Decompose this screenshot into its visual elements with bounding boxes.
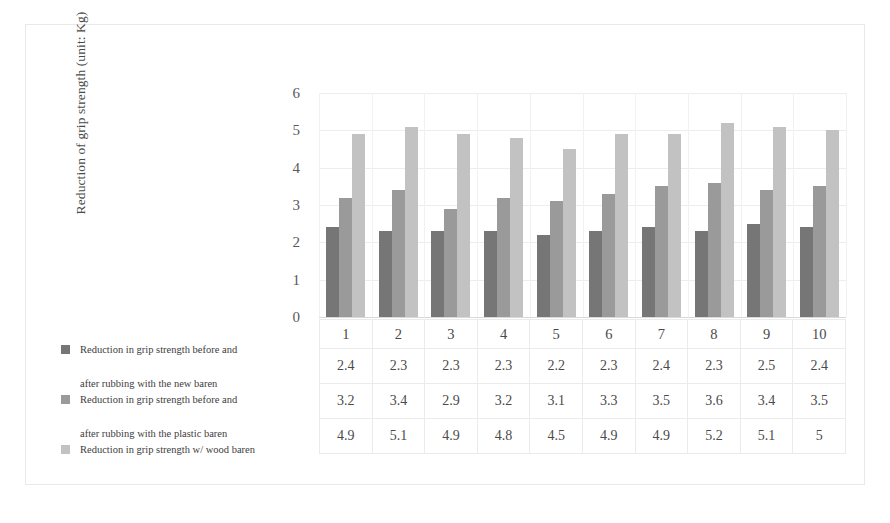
bar-group (484, 93, 523, 317)
chart-legend: Reduction in grip strength before andaft… (52, 319, 318, 479)
bar (550, 201, 563, 317)
y-tick-label: 5 (274, 123, 300, 138)
table-cell: 2.3 (372, 349, 425, 384)
bar (392, 190, 405, 317)
bar-group (642, 93, 681, 317)
table-cell: 2.4 (320, 349, 373, 384)
table-cell: 3.4 (740, 384, 793, 419)
table-cell: 2.3 (477, 349, 530, 384)
table-header-cell: 1 (320, 320, 373, 349)
bar (747, 224, 760, 317)
y-tick-label: 1 (274, 272, 300, 287)
table-cell: 4.9 (582, 419, 635, 454)
bar (497, 198, 510, 317)
bar (602, 194, 615, 317)
bar (642, 227, 655, 317)
bar (537, 235, 550, 317)
table-cell: 3.5 (635, 384, 688, 419)
bar (589, 231, 602, 317)
table-cell: 2.9 (425, 384, 478, 419)
y-tick-label: 6 (274, 86, 300, 101)
table-cell: 5.1 (740, 419, 793, 454)
gridline (319, 317, 846, 318)
bar (800, 227, 813, 317)
table-cell: 2.4 (635, 349, 688, 384)
table-cell: 2.3 (582, 349, 635, 384)
table-cell: 5.2 (688, 419, 741, 454)
table-cell: 4.9 (320, 419, 373, 454)
bar (655, 186, 668, 317)
table-cell: 4.8 (477, 419, 530, 454)
table-cell: 2.5 (740, 349, 793, 384)
table-header-cell: 6 (582, 320, 635, 349)
bar (773, 127, 786, 317)
bar-group (695, 93, 734, 317)
table-cell: 2.3 (425, 349, 478, 384)
table-header-cell: 4 (477, 320, 530, 349)
table-header-cell: 7 (635, 320, 688, 349)
bar-group (326, 93, 365, 317)
legend-label: Reduction in grip strength w/ wood baren (80, 443, 318, 456)
table-cell: 3.6 (688, 384, 741, 419)
bar (695, 231, 708, 317)
bar (563, 149, 576, 317)
bar-group (800, 93, 839, 317)
table-header-cell: 2 (372, 320, 425, 349)
bar-group (431, 93, 470, 317)
plot-area (319, 93, 846, 317)
table-header-cell: 3 (425, 320, 478, 349)
table-row: 4.95.14.94.84.54.94.95.25.15 (320, 419, 846, 454)
table-cell: 3.3 (582, 384, 635, 419)
table-row: 2.42.32.32.32.22.32.42.32.52.4 (320, 349, 846, 384)
table-cell: 5 (793, 419, 846, 454)
table-cell: 4.9 (425, 419, 478, 454)
bar (379, 231, 392, 317)
table-cell: 2.3 (688, 349, 741, 384)
legend-label-line2: after rubbing with the plastic baren (80, 427, 318, 440)
table-header-cell: 10 (793, 320, 846, 349)
y-axis-title: Reduction of grip strength (unit: Kg) (73, 0, 89, 228)
bar (813, 186, 826, 317)
y-tick-label: 4 (274, 160, 300, 175)
bar (457, 134, 470, 317)
plot-region: Reduction of grip strength (unit: Kg) 01… (26, 25, 866, 325)
table-cell: 2.2 (530, 349, 583, 384)
table-cell: 2.4 (793, 349, 846, 384)
legend-label: Reduction in grip strength before and (80, 393, 318, 406)
bar (510, 138, 523, 317)
bar (484, 231, 497, 317)
table-header-cell: 5 (530, 320, 583, 349)
bar (708, 183, 721, 317)
bar-series-container (319, 93, 846, 317)
table-cell: 3.5 (793, 384, 846, 419)
bar (668, 134, 681, 317)
data-table: 123456789102.42.32.32.32.22.32.42.32.52.… (319, 319, 846, 454)
bar-group (747, 93, 786, 317)
bar (339, 198, 352, 317)
table-header-cell: 9 (740, 320, 793, 349)
bar (326, 227, 339, 317)
bar-group (379, 93, 418, 317)
bar (615, 134, 628, 317)
bar (405, 127, 418, 317)
legend-swatch-icon (61, 445, 70, 454)
bar (444, 209, 457, 317)
bar (760, 190, 773, 317)
y-axis-tick-labels: 0123456 (274, 93, 300, 317)
table-cell: 5.1 (372, 419, 425, 454)
legend-label: Reduction in grip strength before and (80, 343, 318, 356)
table-cell: 4.5 (530, 419, 583, 454)
table-cell: 3.1 (530, 384, 583, 419)
bar (352, 134, 365, 317)
bar (826, 130, 839, 317)
legend-swatch-icon (61, 395, 70, 404)
table-header-row: 12345678910 (320, 320, 846, 349)
table-cell: 3.2 (320, 384, 373, 419)
table-cell: 3.4 (372, 384, 425, 419)
category-divider (846, 93, 847, 317)
legend-label-line2: after rubbing with the new baren (80, 377, 318, 390)
y-tick-label: 2 (274, 235, 300, 250)
legend-and-table-block: Reduction in grip strength before andaft… (26, 319, 866, 479)
bar (431, 231, 444, 317)
table-cell: 4.9 (635, 419, 688, 454)
